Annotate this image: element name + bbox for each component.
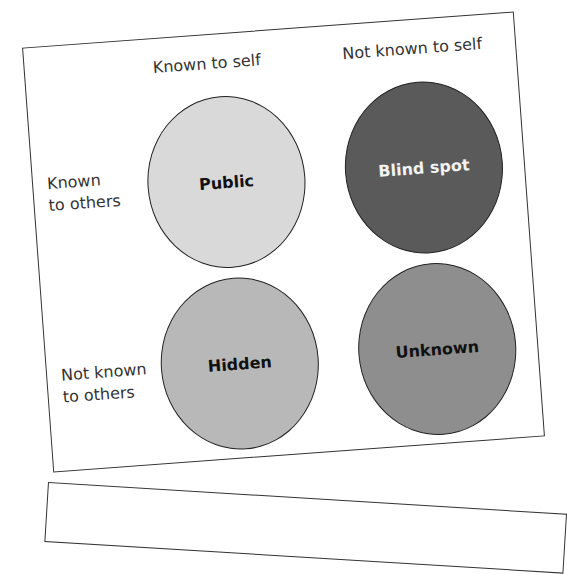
quadrant-hidden: Hidden xyxy=(155,272,325,455)
quadrant-label: Hidden xyxy=(207,352,272,376)
quadrant-label: Unknown xyxy=(395,336,480,361)
quadrant-label: Blind spot xyxy=(378,155,470,181)
diagram-frame: Known to self Not known to self Known to… xyxy=(22,12,545,473)
column-header-not-known-to-self: Not known to self xyxy=(342,33,483,65)
row-header-not-known-to-others: Not known to others xyxy=(60,358,149,408)
quadrant-label: Public xyxy=(198,171,254,194)
next-page-frame-edge xyxy=(44,482,567,574)
row-header-known-to-others: Known to others xyxy=(46,168,121,217)
row-header-line: to others xyxy=(48,190,122,217)
quadrant-unknown: Unknown xyxy=(352,257,522,440)
column-header-known-to-self: Known to self xyxy=(152,49,261,79)
quadrant-blind-spot: Blind spot xyxy=(339,76,509,259)
quadrant-public: Public xyxy=(141,90,311,273)
